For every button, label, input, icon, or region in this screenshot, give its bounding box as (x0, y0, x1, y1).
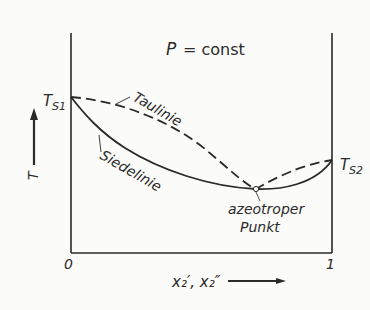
svg-text:S2: S2 (349, 164, 363, 177)
azeotrope-point (253, 186, 258, 191)
title-rest: = const (183, 40, 245, 59)
siedelinie-label: Siedelinie (98, 147, 165, 195)
taulinie-leader (116, 97, 130, 104)
x-tick-1: 1 (326, 256, 335, 272)
siedelinie-leader (99, 135, 101, 152)
azeotrope-label-line2: Punkt (240, 219, 280, 235)
azeotrope-label-line1: azeotroper (228, 201, 305, 217)
y-axis-arrow-icon (30, 108, 38, 165)
x-tick-0: 0 (64, 256, 73, 272)
boil-curve (71, 97, 332, 189)
azeotrope-leader (256, 192, 260, 201)
dew-curve (71, 97, 332, 189)
y-axis-label: T (25, 170, 41, 180)
taulinie-label: Taulinie (131, 89, 186, 130)
phase-diagram: P = const Taulinie Siedelinie T S1 T S2 … (0, 0, 370, 310)
x-axis-arrow-icon (228, 278, 286, 284)
ts1-label: T S1 (43, 92, 66, 113)
svg-text:S1: S1 (52, 100, 66, 113)
x-axis-label: x₂′, x₂″ (171, 273, 221, 291)
ts2-label: T S2 (340, 156, 363, 177)
title-var: P (166, 39, 177, 59)
